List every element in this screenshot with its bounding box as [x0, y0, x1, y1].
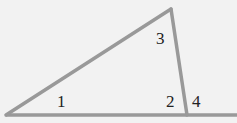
angle-label-2: 2 — [166, 92, 175, 111]
angle-label-4: 4 — [192, 92, 201, 111]
angle-label-3: 3 — [156, 29, 165, 48]
left-side — [6, 9, 171, 115]
angle-label-1: 1 — [57, 92, 66, 111]
triangle-diagram: 1 3 2 4 — [0, 0, 237, 123]
